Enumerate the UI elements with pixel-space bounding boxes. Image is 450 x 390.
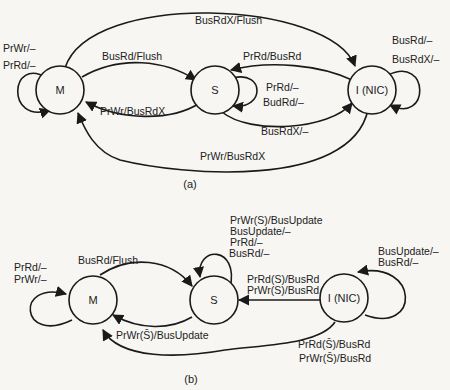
label-a-i-to-m: PrWr/BusRdX [200, 150, 265, 162]
label-a-i-to-s: PrRd/BusRd [243, 50, 302, 62]
label-a-s-self-1: PrRd/– [266, 81, 299, 93]
label-b-i-to-m-2: PrWr(S̄)/BusRd [299, 352, 371, 364]
caption-b: (b) [184, 373, 197, 385]
caption-a: (a) [183, 178, 196, 190]
node-a-s-label: S [211, 84, 218, 96]
label-a-i-self-2: BusRdX/– [392, 53, 439, 65]
node-a-i-label: I (NIC) [356, 84, 388, 96]
label-a-m-to-i: BusRdX/Flush [195, 14, 262, 26]
node-b-s-label: S [210, 294, 217, 306]
diagram-b: M S I (NIC) PrRd/– PrWr/– BusRd/Flush Pr… [14, 214, 439, 385]
edge-b-s-to-m [113, 315, 192, 327]
label-b-m-self-2: PrWr/– [14, 273, 47, 285]
label-a-m-to-s: BusRd/Flush [102, 50, 162, 62]
edge-b-m-self [30, 292, 72, 326]
node-b-i-label: I (NIC) [328, 292, 360, 304]
label-b-m-to-s: BusRd/Flush [78, 254, 138, 266]
label-a-m-self-2: PrRd/– [3, 59, 36, 71]
diagram-a: M S I (NIC) PrWr/– PrRd/– BusRdX/Flush B… [3, 13, 439, 190]
label-a-s-to-i: BusRdX/– [261, 125, 308, 137]
label-b-m-self-1: PrRd/– [14, 261, 47, 273]
state-diagram: M S I (NIC) PrWr/– PrRd/– BusRdX/Flush B… [0, 0, 450, 390]
edge-a-m-to-s [82, 63, 196, 80]
node-a-m-label: M [55, 84, 64, 96]
label-a-m-self-1: PrWr/– [3, 42, 36, 54]
label-a-s-self-2: BudRd/– [263, 96, 304, 108]
label-b-s-self-4: BusRd/– [229, 247, 269, 259]
label-b-i-to-s-2: PrWr(S)/BusRd [247, 284, 319, 296]
node-b-m-label: M [88, 294, 97, 306]
label-b-i-self-2: BusRd/– [378, 256, 418, 268]
label-a-s-to-m: PrWr/BusRdX [100, 105, 165, 117]
label-b-s-to-m: PrWr(S̄)/BusUpdate [116, 329, 209, 341]
label-a-i-self-1: BusRd/– [392, 34, 432, 46]
label-b-i-to-m-1: PrRd(S̄)/BusRd [298, 338, 371, 350]
